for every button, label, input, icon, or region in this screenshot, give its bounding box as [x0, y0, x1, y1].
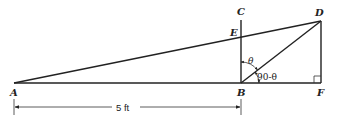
- label-D: D: [314, 7, 324, 18]
- label-F: F: [316, 87, 325, 98]
- label-A: A: [9, 87, 18, 98]
- dimension-label: 5 ft: [116, 102, 130, 113]
- geometry-diagram: C D E A B F θ 90-θ 5 ft: [0, 0, 340, 122]
- angle-theta-label: θ: [248, 56, 254, 66]
- angle-complement-label: 90-θ: [257, 72, 277, 82]
- label-C: C: [237, 6, 245, 17]
- segment-BD: [241, 21, 321, 83]
- label-B: B: [236, 87, 245, 98]
- label-E: E: [229, 27, 238, 38]
- right-angle-marker: [314, 76, 321, 83]
